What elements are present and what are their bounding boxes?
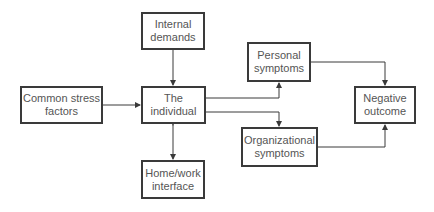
- node-common-stress-factors: Common stress factors: [20, 86, 103, 124]
- node-label: Negative outcome: [363, 92, 406, 118]
- edge-personal-to-negative: [311, 62, 385, 85]
- node-negative-outcome: Negative outcome: [354, 86, 416, 124]
- edge-organizational-to-negative: [318, 125, 385, 147]
- node-personal-symptoms: Personal symptoms: [247, 42, 311, 82]
- node-home-work-interface: Home/work interface: [141, 160, 205, 199]
- node-label: Home/work interface: [145, 167, 201, 193]
- stress-diagram: Internal demands Common stress factors T…: [0, 0, 434, 212]
- edge-individual-to-personal: [206, 83, 279, 98]
- node-label: Internal demands: [150, 18, 195, 44]
- node-internal-demands: Internal demands: [141, 12, 205, 50]
- node-label: Common stress factors: [23, 92, 100, 118]
- node-organizational-symptoms: Organizational symptoms: [241, 127, 318, 167]
- node-label: Personal symptoms: [254, 49, 304, 75]
- edge-individual-to-organizational: [206, 112, 279, 126]
- node-the-individual: The individual: [141, 86, 206, 124]
- node-label: Organizational symptoms: [244, 134, 315, 160]
- node-label: The individual: [151, 92, 197, 118]
